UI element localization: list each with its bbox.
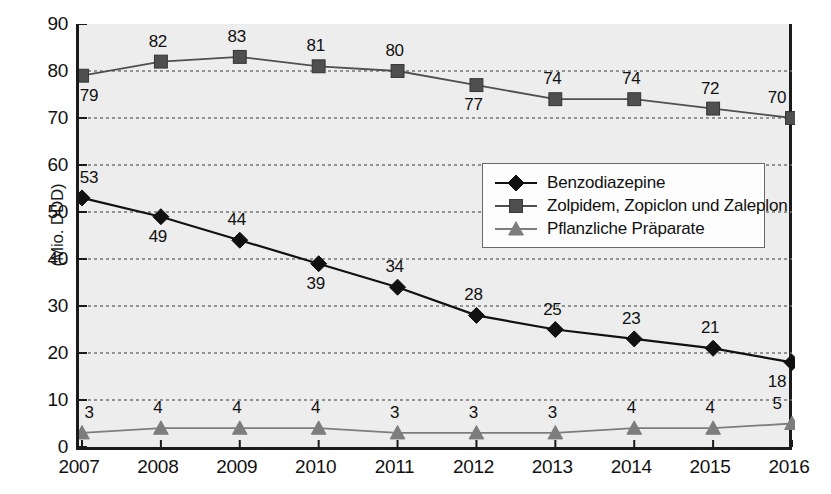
data-point-label: 23 [622, 309, 640, 329]
data-point-marker [468, 307, 484, 323]
y-tick-label: 40 [20, 248, 68, 270]
x-tick-label: 2007 [39, 456, 119, 478]
chart-container: (Mio. DDD) 0102030405060708090 200720082… [0, 0, 831, 494]
y-tick-label: 0 [20, 436, 68, 458]
data-point-marker [391, 65, 404, 78]
data-point-label: 39 [307, 274, 325, 294]
data-point-label: 53 [80, 168, 98, 188]
data-point-label: 74 [622, 69, 640, 89]
x-tick-label: 2009 [197, 456, 277, 478]
x-tick-label: 2015 [670, 456, 750, 478]
data-point-label: 77 [464, 95, 482, 115]
data-point-marker [312, 60, 325, 73]
y-tick-label: 90 [20, 13, 68, 35]
series-line [82, 57, 792, 118]
data-point-marker [390, 279, 406, 295]
data-point-label: 79 [80, 86, 98, 106]
data-point-marker [785, 416, 795, 429]
legend-marker-diamond-icon [493, 173, 539, 193]
data-point-marker [705, 340, 721, 356]
x-tick-label: 2010 [276, 456, 356, 478]
data-point-marker [549, 93, 562, 106]
data-point-marker [232, 232, 248, 248]
data-point-label: 49 [149, 227, 167, 247]
x-tick-label: 2011 [355, 456, 435, 478]
data-point-label: 74 [543, 69, 561, 89]
data-point-marker [628, 93, 641, 106]
data-point-marker [470, 79, 483, 92]
data-point-label: 25 [543, 300, 561, 320]
data-point-label: 3 [84, 403, 93, 423]
x-tick-label: 2008 [118, 456, 198, 478]
data-point-marker [79, 190, 90, 206]
data-point-label: 5 [772, 394, 781, 414]
data-point-marker [154, 55, 167, 68]
data-point-label: 82 [149, 32, 167, 52]
x-tick-label: 2012 [433, 456, 513, 478]
legend-item-2[interactable]: Zolpidem, Zopiclon und Zaleplon [493, 194, 750, 217]
legend-label: Zolpidem, Zopiclon und Zaleplon [547, 196, 787, 216]
data-point-label: 3 [548, 403, 557, 423]
legend-label: Benzodiazepine [547, 173, 665, 193]
data-point-label: 4 [627, 398, 636, 418]
legend-label: Pflanzliche Präparate [547, 219, 704, 239]
y-tick-label: 80 [20, 60, 68, 82]
data-point-marker [153, 209, 169, 225]
data-point-label: 72 [701, 79, 719, 99]
data-point-label: 4 [706, 398, 715, 418]
data-point-label: 3 [390, 403, 399, 423]
y-tick-label: 50 [20, 201, 68, 223]
data-point-label: 83 [228, 27, 246, 47]
x-tick-label: 2014 [591, 456, 671, 478]
data-point-label: 44 [228, 210, 246, 230]
y-tick-label: 20 [20, 342, 68, 364]
y-tick-label: 60 [20, 154, 68, 176]
legend-item-3[interactable]: Pflanzliche Präparate [493, 217, 750, 240]
x-tick-label: 2016 [749, 456, 829, 478]
data-point-label: 34 [385, 257, 403, 277]
data-point-marker [233, 50, 246, 63]
data-point-marker [547, 322, 563, 338]
data-point-marker [626, 331, 642, 347]
data-point-marker [784, 354, 795, 370]
data-point-label: 28 [464, 285, 482, 305]
data-point-label: 18 [768, 372, 786, 392]
y-axis-tick-labels: 0102030405060708090 [10, 0, 68, 494]
y-tick-label: 30 [20, 295, 68, 317]
data-point-marker [786, 112, 795, 125]
data-point-label: 3 [469, 403, 478, 423]
legend-item-1[interactable]: Benzodiazepine [493, 171, 750, 194]
data-point-label: 80 [385, 41, 403, 61]
data-point-label: 4 [311, 398, 320, 418]
data-point-label: 70 [768, 88, 786, 108]
data-point-label: 21 [701, 318, 719, 338]
data-point-label: 4 [232, 398, 241, 418]
x-tick-label: 2013 [512, 456, 592, 478]
chart-legend: BenzodiazepineZolpidem, Zopiclon und Zal… [482, 163, 765, 248]
data-point-label: 81 [307, 36, 325, 56]
data-point-label: 4 [153, 398, 162, 418]
y-tick-label: 70 [20, 107, 68, 129]
legend-marker-square-icon [493, 196, 539, 216]
y-tick-label: 10 [20, 389, 68, 411]
data-point-marker [707, 102, 720, 115]
series-line [82, 424, 792, 433]
data-point-marker [79, 69, 88, 82]
data-point-marker [311, 256, 327, 272]
legend-marker-triangle-icon [493, 219, 539, 239]
